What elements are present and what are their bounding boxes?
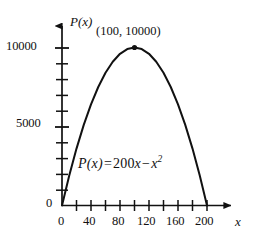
- x-axis-tick-label-80: 80: [112, 215, 124, 228]
- parabola-curve: [62, 48, 207, 206]
- y-axis-title: P(x): [70, 15, 92, 28]
- function-formula-label: P(x)=200x−x2: [78, 155, 163, 171]
- formula-equals: =: [103, 156, 113, 171]
- formula-minus: −: [141, 156, 151, 171]
- x-axis-tick-label-0: 0: [58, 215, 64, 228]
- vertex-point-marker: [132, 45, 137, 50]
- formula-exponent: 2: [158, 154, 163, 164]
- x-axis-tick-label-40: 40: [83, 215, 95, 228]
- y-axis-tick-label-0: 0: [46, 197, 52, 210]
- x-axis-tick-label-200: 200: [195, 215, 213, 228]
- formula-lhs: P(x): [78, 156, 103, 171]
- y-axis-tick-label-10000: 10000: [6, 40, 37, 53]
- parabola-figure: 10000 5000 0 0 40 80 120 160 200 P(x) x …: [0, 0, 254, 243]
- x-axis-tick-label-160: 160: [166, 215, 184, 228]
- x-axis-tick-label-120: 120: [137, 215, 155, 228]
- vertex-coordinate-label: (100, 10000): [96, 25, 161, 38]
- y-axis-tick-label-5000: 5000: [16, 117, 41, 130]
- x-axis-title: x: [235, 215, 241, 228]
- formula-coefficient: 200: [113, 156, 135, 171]
